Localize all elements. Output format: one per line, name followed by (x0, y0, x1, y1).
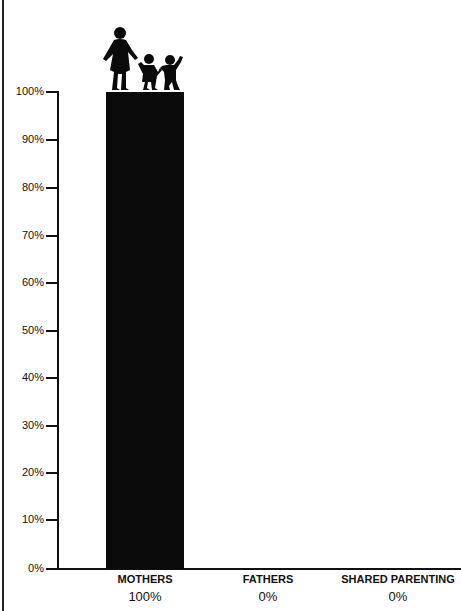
y-tick (46, 377, 57, 379)
category-label: MOTHERS (75, 573, 215, 585)
y-tick (46, 139, 57, 141)
y-tick (46, 330, 57, 332)
y-tick-label: 0% (0, 562, 44, 574)
y-tick-label: 40% (0, 371, 44, 383)
y-tick-label: 90% (0, 133, 44, 145)
y-tick (46, 282, 57, 284)
family-silhouette-icon (98, 24, 188, 92)
y-tick-label: 70% (0, 229, 44, 241)
y-tick-label: 50% (0, 324, 44, 336)
y-tick-label: 10% (0, 513, 44, 525)
y-tick-label: 20% (0, 466, 44, 478)
y-tick (46, 519, 57, 521)
bar-mothers (106, 92, 184, 569)
y-tick-label: 80% (0, 181, 44, 193)
y-tick (46, 425, 57, 427)
category-label: SHARED PARENTING (328, 573, 461, 585)
value-label: 0% (198, 589, 338, 604)
y-tick (46, 187, 57, 189)
y-tick (46, 91, 57, 93)
category-label: FATHERS (198, 573, 338, 585)
y-tick (46, 472, 57, 474)
y-tick-label: 30% (0, 419, 44, 431)
value-label: 100% (75, 589, 215, 604)
y-tick (46, 235, 57, 237)
y-axis-line (57, 91, 59, 570)
y-tick (46, 568, 57, 570)
y-tick-label: 60% (0, 276, 44, 288)
value-label: 0% (328, 589, 461, 604)
y-tick-label: 100% (0, 85, 44, 97)
